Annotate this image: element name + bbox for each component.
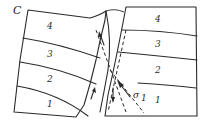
left-layer-2-label: 2	[46, 74, 53, 84]
left-layer-1-label: 1	[47, 99, 53, 109]
left-layer-3-label: 3	[47, 49, 53, 59]
left-layer-4-label: 4	[46, 21, 53, 31]
fault-top-arc	[106, 10, 124, 12]
stress-label-subscript: 1	[141, 93, 147, 103]
right-layer-3-label: 3	[155, 39, 161, 49]
right-layer-boundary-4-3	[122, 30, 197, 36]
panel-label: C	[13, 4, 22, 17]
right-layer-4-label: 4	[154, 14, 161, 24]
fault-diagram-svg: C 4 3 2 1 4 3 2 1 σ 1	[0, 0, 206, 132]
right-layer-1-label: 1	[155, 95, 161, 105]
left-layer-boundary-3-2	[20, 62, 96, 84]
stress-arrow	[117, 80, 130, 97]
slip-arrow-lower-left	[91, 87, 96, 99]
right-layer-boundary-3-2	[118, 52, 197, 60]
fault-diagram: C 4 3 2 1 4 3 2 1 σ 1	[0, 0, 206, 132]
left-layer-boundary-4-3	[23, 38, 100, 58]
right-layer-boundary-2-1	[138, 83, 196, 88]
stress-label-sigma: σ	[133, 90, 140, 100]
right-layer-2-label: 2	[154, 65, 161, 75]
